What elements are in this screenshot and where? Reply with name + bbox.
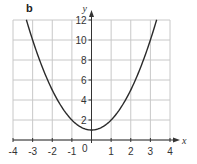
y-tick-label: 12 bbox=[75, 15, 87, 26]
y-tick-label: 6 bbox=[81, 75, 87, 86]
x-tick-label: -2 bbox=[48, 146, 57, 157]
x-axis-label: x bbox=[181, 135, 187, 146]
y-tick-label: 8 bbox=[81, 55, 87, 66]
x-tick-label: 3 bbox=[148, 146, 154, 157]
x-tick-label: -1 bbox=[67, 146, 76, 157]
y-axis-arrow-icon bbox=[89, 10, 94, 17]
parabola-chart: -4-3-2-11234024681012xy bbox=[0, 0, 197, 164]
y-tick-label: 4 bbox=[81, 95, 87, 106]
x-axis-arrow-icon bbox=[173, 138, 180, 143]
x-tick-label: 2 bbox=[128, 146, 134, 157]
y-axis-label: y bbox=[82, 3, 88, 14]
y-tick-label: 2 bbox=[81, 115, 87, 126]
origin-label: 0 bbox=[82, 143, 88, 154]
x-tick-label: 1 bbox=[108, 146, 114, 157]
x-tick-label: -3 bbox=[28, 146, 37, 157]
x-tick-label: -4 bbox=[9, 146, 18, 157]
y-tick-label: 10 bbox=[75, 35, 87, 46]
x-tick-label: 4 bbox=[167, 146, 173, 157]
